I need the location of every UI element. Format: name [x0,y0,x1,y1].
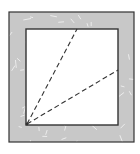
inner-square [26,29,118,125]
square-frame-diagram [0,0,140,154]
origin-point [26,123,29,126]
diagram-canvas [0,0,140,154]
